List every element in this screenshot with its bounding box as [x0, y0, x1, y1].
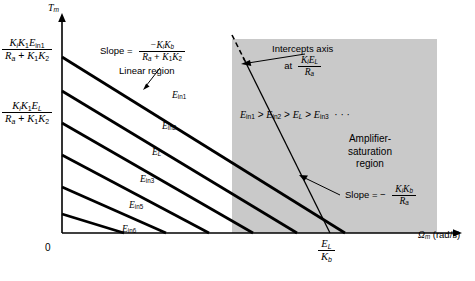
saturation-region-line3: region [333, 158, 407, 171]
saturation-slope-annotation: Slope = − KiKb Ra [345, 184, 416, 207]
y-axis-label-sub: m [54, 6, 60, 13]
y-intercept-upper: KiK1Ein1 Ra + K1K2 [2, 37, 52, 62]
curve-label-ein5: Ein5 [129, 200, 143, 211]
x-axis-label-sub: m [425, 233, 430, 240]
saturation-region-line1: Amplifier- [333, 133, 407, 146]
saturation-slope-prefix: Slope = − [345, 190, 386, 200]
curve-label-ein3: Ein3 [140, 174, 154, 185]
intercept-axis-note-denominator: Ra [298, 66, 321, 78]
y-intercept-lower-fraction: KiK1EL Ra + K1K2 [2, 100, 52, 125]
intercept-axis-note: Intercepts axis at KiEL Ra [272, 44, 333, 78]
linear-slope-fraction: −KiKb Ra + K1K2 [139, 40, 185, 63]
saturation-slope-fraction: KiKb Ra [392, 184, 416, 207]
saturation-slope-numerator: KiKb [392, 184, 416, 195]
x-axis-units: (rad/s) [433, 229, 460, 240]
load-line-el [62, 123, 253, 233]
load-line-ein5 [62, 187, 166, 233]
linear-slope-numerator: −KiKb [139, 40, 185, 51]
y-intercept-upper-numerator: KiK1Ein1 [2, 37, 52, 49]
linear-slope-denominator: Ra + K1K2 [139, 51, 185, 63]
curve-label-ein1: Ein1 [172, 90, 186, 101]
y-axis-label: Tm [48, 3, 59, 14]
y-intercept-lower: KiK1EL Ra + K1K2 [2, 100, 52, 125]
y-intercept-upper-denominator: Ra + K1K2 [2, 49, 52, 62]
linear-slope-annotation: Slope = −KiKb Ra + K1K2 [100, 40, 185, 63]
saturation-region-label: Amplifier- saturation region [333, 133, 407, 171]
y-intercept-lower-denominator: Ra + K1K2 [2, 112, 52, 125]
inequality-annotation: Ein1 > Ein2 > EL > Ein3 · · · [240, 110, 350, 121]
curve-label-el: EL [152, 147, 161, 158]
curve-label-ein2: Ein2 [162, 121, 176, 132]
saturation-slope-denominator: Ra [392, 195, 416, 207]
x-axis-label: Ωm (rad/s) [418, 230, 460, 241]
curve-label-ein6: Ein6 [122, 224, 136, 235]
intercept-axis-note-at: at [284, 61, 292, 71]
linear-slope-prefix: Slope = [100, 46, 133, 56]
x-tick-numerator: EL [318, 238, 335, 250]
saturation-region-line2: saturation [333, 146, 407, 159]
load-line-ein6 [62, 214, 124, 233]
x-tick-fraction: EL Kb [318, 238, 335, 263]
linear-region-label: Linear region [119, 66, 174, 76]
x-tick-label-el-over-kb: EL Kb [318, 238, 335, 263]
torque-speed-diagram: Tm Ωm (rad/s) 0 KiK1Ein1 Ra + K1K2 KiK1E… [0, 0, 475, 281]
intercept-axis-note-fraction: KiEL Ra [298, 55, 321, 78]
intercept-axis-note-numerator: KiEL [298, 55, 321, 66]
origin-label: 0 [45, 243, 51, 254]
y-intercept-upper-fraction: KiK1Ein1 Ra + K1K2 [2, 37, 52, 62]
y-axis-arrowhead [58, 13, 66, 22]
intercept-axis-note-line1: Intercepts axis [272, 44, 333, 54]
y-intercept-lower-numerator: KiK1EL [2, 100, 52, 112]
x-axis-label-text: Ω [418, 230, 425, 240]
x-tick-denominator: Kb [318, 250, 335, 263]
intercept-axis-note-value: at KiEL Ra [272, 55, 333, 78]
